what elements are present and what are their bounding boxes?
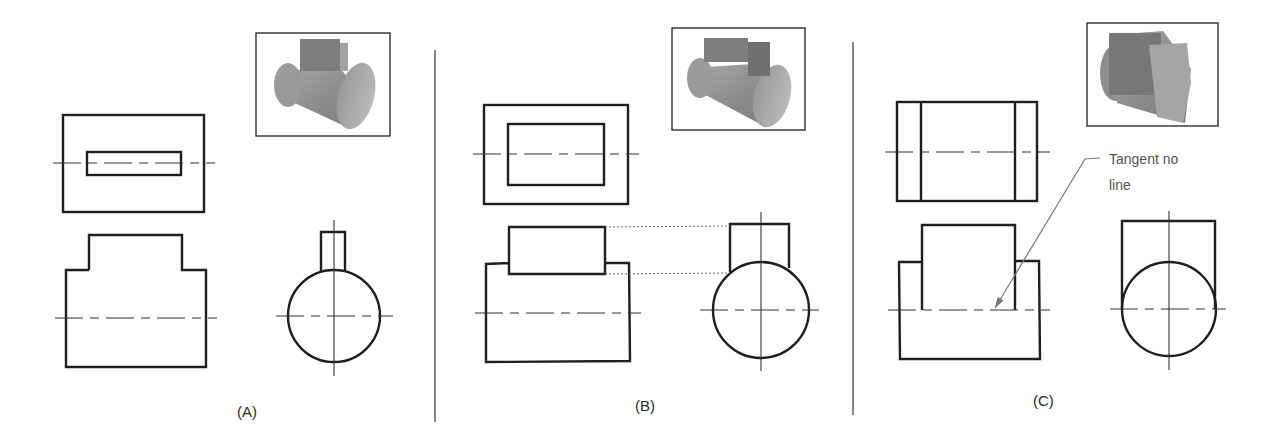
top-view: [53, 115, 215, 212]
front-view: [888, 225, 1050, 359]
block-top: [704, 38, 748, 62]
side-view-key-outline: [321, 232, 345, 271]
top-view-outline: [484, 105, 628, 204]
annotation-line-1: Tangent no: [1109, 146, 1178, 172]
panel-caption-a: (A): [237, 403, 257, 420]
panel-b: [473, 28, 819, 371]
leader-arrow: [995, 158, 1100, 308]
cylinder-back-face: [274, 63, 302, 107]
top-view: [885, 102, 1050, 201]
panel-caption-c: (C): [1033, 392, 1054, 409]
block-side: [748, 42, 770, 76]
pictorial-view: [1087, 23, 1218, 126]
front-view: [475, 227, 641, 362]
tangent-annotation-text: Tangent noline: [1109, 146, 1178, 198]
projection-line: [605, 273, 730, 274]
key-block-side: [340, 43, 348, 71]
top-view: [473, 105, 639, 204]
front-view-body-outline: [899, 261, 1040, 359]
side-view: [1110, 211, 1226, 370]
orthographic-projection-figure: [0, 0, 1282, 446]
front-view-outline: [66, 235, 206, 367]
front-view: [55, 235, 217, 367]
panel-a: [53, 33, 393, 376]
pictorial-view: [672, 28, 805, 132]
side-view: [276, 220, 393, 376]
side-view: [700, 212, 819, 371]
front-view-outline: [486, 227, 630, 362]
projection-line: [605, 226, 730, 227]
key-block: [300, 39, 340, 71]
pictorial-view: [256, 33, 390, 136]
cylinder-back-face: [687, 58, 713, 98]
annotation-line-2: line: [1109, 172, 1178, 198]
panel-caption-b: (B): [635, 397, 655, 414]
